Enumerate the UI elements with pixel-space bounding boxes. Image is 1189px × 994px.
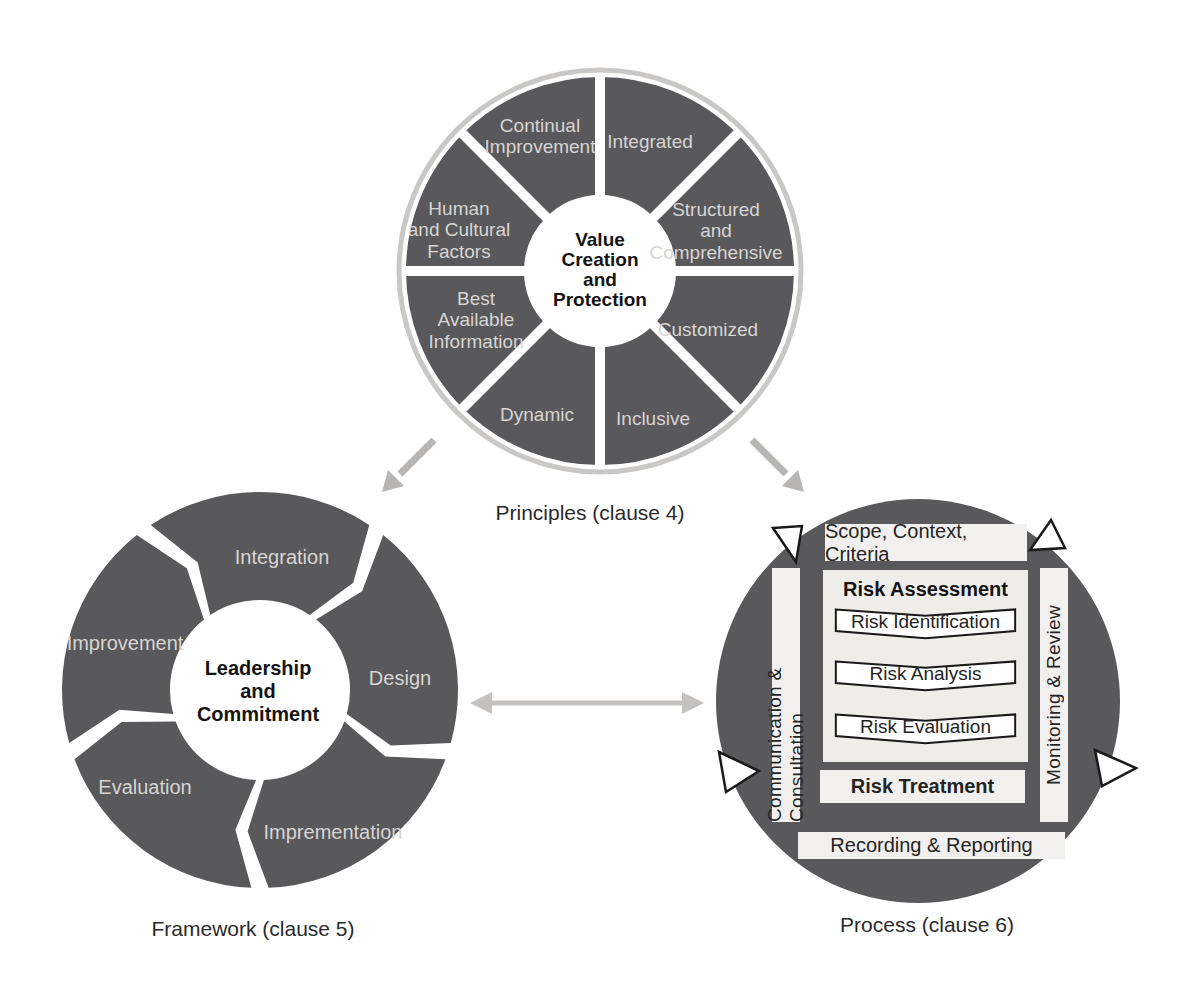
- risk-evaluation-step: Risk Evaluation: [834, 709, 1017, 745]
- principle-dynamic: Dynamic: [500, 404, 574, 425]
- process-risk-assessment-panel: Risk Assessment Risk Identification Risk…: [823, 570, 1028, 762]
- principle-integrated: Integrated: [607, 131, 693, 152]
- framework-cycle: Integration Design Imprementation Evalua…: [60, 490, 460, 890]
- principles-hub-label: Value Creation and Protection: [553, 230, 647, 311]
- arrow-principles-to-process-icon: [742, 430, 814, 502]
- process-communication-bar: Communication & Consultation: [772, 568, 800, 822]
- risk-analysis-step: Risk Analysis: [834, 656, 1017, 692]
- process-caption: Process (clause 6): [840, 913, 1014, 937]
- process-arrow-left-icon: [714, 744, 764, 796]
- principles-wheel: Continual Improvement Integrated Structu…: [394, 65, 806, 477]
- arrow-framework-process-bidirectional-icon: [460, 684, 714, 722]
- process-recording-bar: Recording & Reporting: [798, 832, 1065, 859]
- process-monitoring-bar: Monitoring & Review: [1040, 568, 1068, 822]
- framework-hub-label: Leadership and Commitment: [197, 657, 319, 726]
- framework-integration: Integration: [235, 546, 330, 568]
- risk-analysis-label: Risk Analysis: [834, 656, 1017, 692]
- principles-caption: Principles (clause 4): [495, 501, 684, 525]
- iso31000-risk-management-diagram: Continual Improvement Integrated Structu…: [0, 0, 1189, 994]
- process-arrow-right-icon: [1090, 744, 1140, 790]
- framework-evaluation: Evaluation: [98, 776, 191, 798]
- principle-structured: Structured and Comprehensive: [649, 199, 782, 263]
- recording-reporting-label: Recording & Reporting: [830, 834, 1032, 857]
- framework-improvement: Improvement: [67, 632, 184, 654]
- risk-identification-label: Risk Identification: [834, 604, 1017, 640]
- risk-evaluation-label: Risk Evaluation: [834, 709, 1017, 745]
- risk-identification-step: Risk Identification: [834, 604, 1017, 640]
- principle-continual-improvement: Continual Improvement: [485, 115, 596, 158]
- framework-implementation: Imprementation: [264, 821, 403, 843]
- framework-caption: Framework (clause 5): [151, 917, 354, 941]
- risk-assessment-title: Risk Assessment: [823, 578, 1028, 601]
- process-scope-label: Scope, Context, Criteria: [825, 520, 1027, 566]
- risk-treatment-label: Risk Treatment: [851, 775, 994, 798]
- process-monitoring-label: Monitoring & Review: [1043, 605, 1065, 785]
- process-arrow-top-left-icon: [768, 522, 806, 566]
- principle-customized: Customized: [658, 319, 758, 340]
- process-scope-bar: Scope, Context, Criteria: [825, 524, 1027, 561]
- framework-design: Design: [369, 667, 431, 689]
- process-arrow-top-right-icon: [1026, 516, 1068, 554]
- principle-inclusive: Inclusive: [616, 408, 690, 429]
- process-risk-treatment-bar: Risk Treatment: [820, 770, 1025, 803]
- process-communication-label: Communication & Consultation: [764, 568, 808, 822]
- principle-best-available-information: Best Available Information: [428, 288, 523, 352]
- principle-human-cultural-factors: Human and Cultural Factors: [408, 198, 510, 262]
